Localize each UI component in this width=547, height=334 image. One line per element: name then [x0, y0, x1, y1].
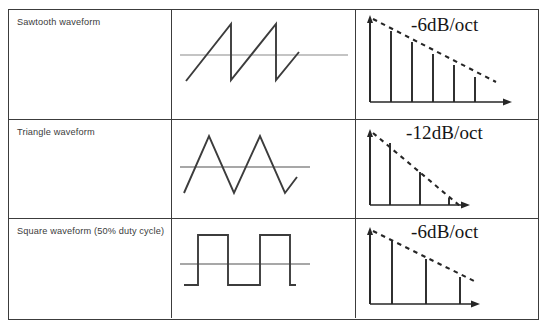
table-row: Sawtooth waveform [9, 10, 538, 120]
waveform-shape-cell [172, 219, 356, 318]
spectrum-cell: -12dB/oct [356, 120, 538, 218]
figure-page: Sawtooth waveform [0, 0, 547, 334]
cropped-caption [0, 0, 547, 5]
table-row: Square waveform (50% duty cycle) [9, 219, 538, 318]
square-waveform-graphic [172, 219, 356, 317]
waveform-name-label: Square waveform (50% duty cycle) [17, 225, 171, 237]
slope-label: -12dB/oct [406, 122, 483, 144]
sawtooth-waveform-graphic [172, 10, 356, 119]
waveform-name-cell: Sawtooth waveform [9, 10, 172, 119]
waveform-name-label: Triangle waveform [17, 126, 171, 138]
harmonic-bars [370, 134, 449, 205]
spectrum-cell: -6dB/oct [356, 10, 538, 119]
triangle-trace [184, 136, 297, 193]
waveform-shape-cell [172, 10, 356, 119]
square-trace [184, 235, 296, 285]
x-axis-arrow [503, 99, 512, 106]
x-axis-arrow [471, 301, 480, 308]
x-axis-arrow [461, 202, 470, 209]
waveform-name-cell: Triangle waveform [9, 120, 172, 218]
waveform-name-label: Sawtooth waveform [17, 16, 171, 28]
waveform-name-cell: Square waveform (50% duty cycle) [9, 219, 172, 318]
slope-label: -6dB/oct [411, 221, 478, 243]
waveform-table: Sawtooth waveform [8, 9, 539, 320]
spectrum-cell: -6dB/oct [356, 219, 538, 318]
slope-label: -6dB/oct [411, 14, 478, 36]
table-row: Triangle waveform [9, 120, 538, 219]
sawtooth-trace [186, 24, 299, 81]
triangle-waveform-graphic [172, 120, 356, 218]
waveform-shape-cell [172, 120, 356, 218]
